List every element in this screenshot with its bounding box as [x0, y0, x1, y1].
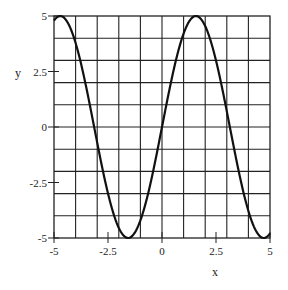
y-tick-label: 2.5	[33, 66, 47, 78]
x-tick-label: 5	[267, 245, 273, 257]
line-chart: -5-2.502.55 52.50-2.5-5 x y	[0, 0, 288, 290]
y-tick-label: 5	[42, 10, 48, 22]
y-tick-labels: 52.50-2.5-5	[30, 10, 48, 244]
y-axis-title: y	[15, 66, 21, 80]
x-tick-label: -5	[49, 245, 59, 257]
y-tick-label: 0	[42, 121, 48, 133]
x-tick-label: -2.5	[99, 245, 117, 257]
axis-ticks	[48, 16, 270, 243]
y-tick-label: -2.5	[30, 177, 48, 189]
x-tick-label: 2.5	[209, 245, 223, 257]
x-tick-labels: -5-2.502.55	[49, 245, 273, 257]
y-tick-label: -5	[38, 232, 48, 244]
x-axis-title: x	[212, 265, 218, 279]
x-tick-label: 0	[159, 245, 165, 257]
